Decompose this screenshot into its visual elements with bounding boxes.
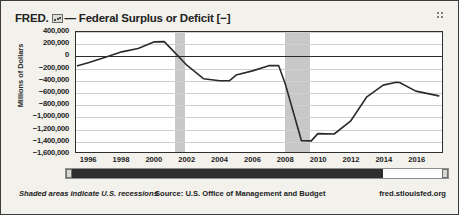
x-tick-label: 2002 [178,155,195,164]
x-tick-label: 1998 [113,155,130,164]
chart-footer: Shaded areas indicate U.S. recessions So… [15,189,446,201]
chart-header: FRED. — Federal Surplus or Deficit [−] [15,10,446,26]
x-tick-label: 2012 [343,155,360,164]
y-tick-label: −1,400,000 [17,136,69,145]
x-tick-label: 2010 [310,155,327,164]
series-line [78,42,439,141]
y-tick-label: −200,000 [17,63,69,72]
y-tick-label: −400,000 [17,75,69,84]
y-tick-label: −1,200,000 [17,124,69,133]
x-tick-label: 2016 [408,155,425,164]
range-track-fill [66,169,383,178]
plot-area[interactable] [75,31,443,153]
page-title: — Federal Surplus or Deficit [−] [65,12,231,24]
y-tick-label: −1,600,000 [17,148,69,157]
x-tick-label: 2000 [145,155,162,164]
y-tick-label: 0 [17,50,69,59]
range-handle-right[interactable] [442,169,448,178]
x-tick-label: 2006 [244,155,261,164]
range-handle-left[interactable] [66,169,72,178]
recession-footnote: Shaded areas indicate U.S. recessions [19,189,158,198]
y-tick-label: −1,000,000 [17,111,69,120]
mini-chart-icon [52,14,63,23]
y-axis-tick-labels: 400,000200,0000−200,000−400,000−600,000−… [17,27,69,161]
y-tick-label: 400,000 [17,26,69,35]
source-note: Source: U.S. Office of Management and Bu… [155,189,325,198]
x-axis-tick-labels: 1996199820002002200420062008201020122014… [75,155,443,167]
x-tick-label: 2008 [277,155,294,164]
fred-chart-widget: FRED. — Federal Surplus or Deficit [−] M… [0,0,459,215]
range-scrollbar[interactable] [65,168,449,179]
grip-dots-icon[interactable] [437,12,446,21]
series-line-chart [76,32,442,152]
fred-url-link[interactable]: fred.stlouisfed.org [379,189,446,198]
y-tick-label: 200,000 [17,38,69,47]
y-tick-label: −800,000 [17,99,69,108]
y-tick-label: −600,000 [17,87,69,96]
x-tick-label: 2014 [375,155,392,164]
x-tick-label: 1996 [80,155,97,164]
plot-wrapper: Millions of Dollars 400,000200,0000−200,… [1,27,459,161]
x-tick-label: 2004 [211,155,228,164]
